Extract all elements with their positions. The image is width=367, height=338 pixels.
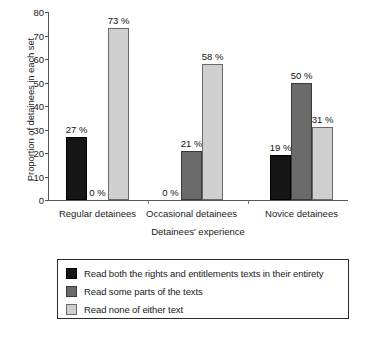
y-tick-label: 0 <box>18 195 44 206</box>
bar-chart-figure: Proportion of detainees in each set 0102… <box>0 0 367 338</box>
legend-item: Read some parts of the texts <box>66 283 340 300</box>
y-tick-label: 10 <box>18 171 44 182</box>
chart-legend: Read both the rights and entitlements te… <box>57 259 349 319</box>
bar <box>312 127 333 200</box>
bar <box>270 155 291 200</box>
bar-value-label: 31 % <box>307 114 339 125</box>
bar-value-label: 73 % <box>103 15 135 26</box>
x-axis-title: Detainees' experience <box>48 226 348 237</box>
y-tick-label: 60 <box>18 54 44 65</box>
legend-item: Read both the rights and entitlements te… <box>66 265 340 282</box>
x-axis-line <box>48 200 348 201</box>
x-category-label: Novice detainees <box>242 208 362 219</box>
bar-value-label: 27 % <box>61 124 93 135</box>
y-tick-mark <box>45 83 49 84</box>
y-tick-label: 40 <box>18 101 44 112</box>
y-tick-mark <box>45 153 49 154</box>
legend-swatch-icon <box>66 268 77 279</box>
y-tick-label: 80 <box>18 7 44 18</box>
bar <box>181 151 202 200</box>
y-tick-label: 30 <box>18 124 44 135</box>
x-group-separator <box>148 200 149 204</box>
y-tick-mark <box>45 36 49 37</box>
bar-value-label: 50 % <box>286 70 318 81</box>
bar <box>108 28 129 200</box>
y-tick-mark <box>45 106 49 107</box>
legend-label: Read both the rights and entitlements te… <box>84 268 323 279</box>
legend-label: Read some parts of the texts <box>84 286 203 297</box>
y-tick-mark <box>45 130 49 131</box>
y-tick-mark <box>45 200 49 201</box>
legend-swatch-icon <box>66 304 77 315</box>
plot-area: 01020304050607080 27 %0 %73 %0 %21 %58 %… <box>48 12 348 200</box>
y-tick-label: 50 <box>18 77 44 88</box>
x-group-separator <box>248 200 249 204</box>
bar <box>202 64 223 200</box>
y-tick-mark <box>45 177 49 178</box>
legend-swatch-icon <box>66 286 77 297</box>
y-tick-mark <box>45 59 49 60</box>
x-category-label: Occasional detainees <box>132 208 252 219</box>
legend-label: Read none of either text <box>84 304 183 315</box>
y-tick-label: 20 <box>18 148 44 159</box>
bar-value-label: 58 % <box>197 51 229 62</box>
y-tick-mark <box>45 12 49 13</box>
bar <box>291 83 312 201</box>
legend-item: Read none of either text <box>66 301 340 318</box>
y-tick-label: 70 <box>18 30 44 41</box>
